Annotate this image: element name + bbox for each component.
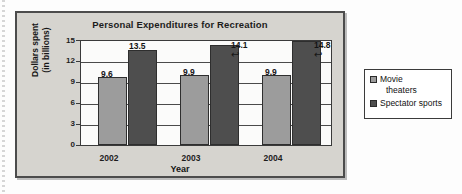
- legend-label-movie-theaters: Movie theaters: [380, 74, 417, 95]
- legend-label-movie-theaters-line2: theaters: [380, 85, 417, 96]
- y-tick-3: 3: [53, 119, 75, 128]
- y-axis-title-line1: Dollars spent: [30, 23, 40, 77]
- x-tick-2003: 2003: [161, 153, 221, 163]
- y-tick-15: 15: [53, 36, 75, 45]
- data-label-sports-2002: 13.5: [129, 41, 146, 51]
- legend-swatch-movie-theaters: [370, 76, 377, 83]
- y-tick-0: 0: [53, 140, 75, 149]
- y-tick-9: 9: [53, 77, 75, 86]
- chart-title: Personal Expenditures for Recreation: [17, 19, 343, 30]
- chart-figure: Personal Expenditures for Recreation Dol…: [0, 0, 462, 194]
- legend-label-spectator-sports: Spectator sports: [380, 98, 442, 109]
- legend-swatch-spectator-sports: [370, 100, 377, 107]
- chart-legend: Movie theaters Spectator sports: [364, 69, 452, 119]
- legend-label-movie-theaters-line1: Movie: [380, 74, 403, 84]
- y-axis-title: Dollars spent (in billions): [30, 0, 52, 104]
- data-label-movie-2004: 9.9: [265, 67, 277, 77]
- scan-edge-artifact: [2, 0, 5, 194]
- bar-spectator-sports-2003[interactable]: [210, 45, 239, 145]
- y-tick-12: 12: [53, 56, 75, 65]
- x-tick-2002: 2002: [79, 153, 139, 163]
- x-axis-title: Year: [17, 164, 343, 174]
- callout-arrow-2003: ↩: [231, 50, 239, 60]
- bar-spectator-sports-2002[interactable]: [128, 50, 157, 145]
- chart-panel: Personal Expenditures for Recreation Dol…: [15, 11, 345, 178]
- bar-movie-theaters-2003[interactable]: [180, 75, 209, 145]
- data-label-movie-2002: 9.6: [101, 69, 113, 79]
- y-tick-6: 6: [53, 98, 75, 107]
- bar-movie-theaters-2004[interactable]: [262, 75, 291, 145]
- legend-item-movie-theaters[interactable]: Movie theaters: [370, 74, 447, 95]
- data-label-movie-2003: 9.9: [183, 67, 195, 77]
- bar-movie-theaters-2002[interactable]: [98, 77, 127, 145]
- callout-arrow-2004: ↩: [314, 50, 322, 60]
- plot-area: [80, 40, 332, 146]
- x-tick-2004: 2004: [243, 153, 303, 163]
- legend-item-spectator-sports[interactable]: Spectator sports: [370, 98, 447, 109]
- y-axis-title-line2: (in billions): [41, 27, 51, 72]
